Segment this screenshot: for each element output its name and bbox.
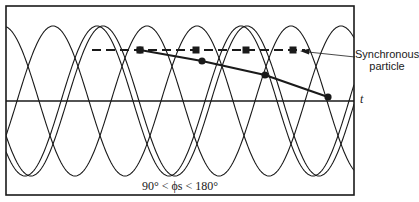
synchronous-marker-square — [290, 47, 297, 54]
phase-range-label: 90° < ϕs < 180° — [125, 179, 235, 194]
particle-marker-dot — [324, 93, 331, 100]
label-line-1: Synchronous — [355, 48, 419, 60]
particle-marker-dot — [198, 57, 205, 64]
synchronous-marker-square — [243, 47, 250, 54]
synchronous-particle-label: Synchronous particle — [355, 48, 419, 72]
time-axis-label: t — [360, 92, 363, 107]
synchronous-marker-square — [193, 47, 200, 54]
annotation-arrow-line — [308, 52, 355, 57]
particle-marker-dot — [261, 71, 268, 78]
label-line-2: particle — [355, 60, 419, 72]
particle-marker-dot — [136, 46, 143, 53]
